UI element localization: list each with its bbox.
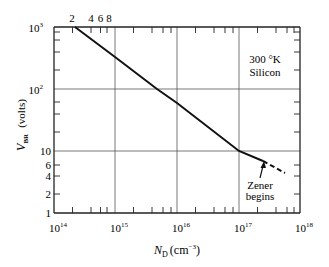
breakdown-curve-solid bbox=[75, 27, 263, 161]
temperature-annotation: 300 °K bbox=[249, 53, 281, 65]
y-axis-labels: 103 102 10 6 4 2 1 bbox=[29, 21, 52, 219]
top-tick-4: 4 bbox=[88, 12, 94, 24]
x-minor-ticks bbox=[73, 207, 295, 213]
y-minor-ticks bbox=[54, 32, 60, 194]
zener-annotation-line2: begins bbox=[246, 190, 275, 202]
x-tick-1e16: 1016 bbox=[172, 221, 191, 234]
y-axis-title: VBR(volts) bbox=[14, 99, 30, 151]
x-tick-1e17: 1017 bbox=[234, 221, 253, 234]
y-tick-10: 10 bbox=[40, 145, 52, 157]
zener-arrow-icon bbox=[260, 161, 266, 178]
top-tick-2: 2 bbox=[69, 12, 75, 24]
x-axis-labels: 1014 1015 1016 1017 1018 bbox=[49, 221, 314, 234]
top-tick-8: 8 bbox=[106, 12, 112, 24]
material-annotation: Silicon bbox=[249, 66, 281, 78]
top-tick-6: 6 bbox=[98, 12, 104, 24]
y-tick-1: 1 bbox=[46, 207, 52, 219]
x-tick-1e15: 1015 bbox=[110, 221, 129, 234]
y-tick-2: 2 bbox=[46, 188, 52, 200]
y-right-minor-ticks bbox=[294, 32, 300, 194]
zener-curve-dashed bbox=[263, 161, 285, 173]
top-axis-labels: 2 4 6 8 bbox=[69, 12, 112, 24]
x-top-minor-ticks bbox=[73, 27, 295, 33]
y-tick-100: 102 bbox=[29, 83, 44, 96]
x-tick-1e14: 1014 bbox=[49, 221, 68, 234]
y-tick-4: 4 bbox=[46, 170, 52, 182]
x-axis-title: ND(cm−3) bbox=[153, 243, 200, 259]
x-tick-1e18: 1018 bbox=[295, 221, 314, 234]
breakdown-voltage-chart: 2 4 6 8 103 102 10 6 4 2 1 1014 1015 101… bbox=[0, 0, 329, 267]
y-tick-1000: 103 bbox=[29, 21, 44, 34]
